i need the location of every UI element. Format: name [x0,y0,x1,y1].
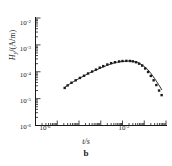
model-curve [65,61,162,90]
data-markers [64,60,163,97]
plot-canvas [0,0,172,166]
axis-ticks [36,18,167,126]
figure-panel-b: Hy/(A/m) 10-2 10-3 10-4 10-5 10-6 10-6 1… [0,0,172,166]
